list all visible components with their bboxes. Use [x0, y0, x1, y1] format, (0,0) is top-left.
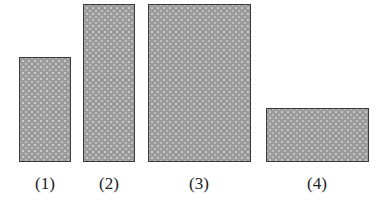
label-2: (2) [99, 174, 119, 194]
rectangle-3 [148, 4, 251, 162]
rectangle-1 [19, 57, 71, 162]
label-1: (1) [35, 174, 55, 194]
rectangle-4 [266, 108, 369, 162]
label-4: (4) [307, 174, 327, 194]
rectangle-2 [83, 4, 135, 162]
label-3: (3) [189, 174, 209, 194]
